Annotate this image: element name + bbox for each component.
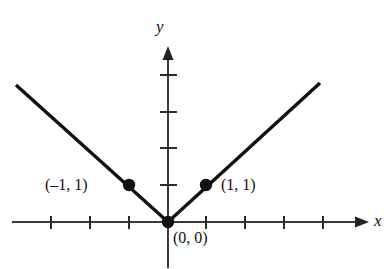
graph-figure: y x (–1, 1) (1, 1) (0, 0) <box>0 0 389 269</box>
x-axis-label: x <box>374 212 382 229</box>
data-point-origin <box>162 216 174 228</box>
point-label-negative-one: (–1, 1) <box>45 177 88 193</box>
data-point-left <box>123 179 135 191</box>
y-axis-label: y <box>156 18 164 35</box>
x-axis-arrow-icon <box>355 217 369 228</box>
data-point-right <box>200 179 212 191</box>
point-label-positive-one: (1, 1) <box>221 177 256 193</box>
y-axis-arrow-icon <box>163 46 174 60</box>
point-label-origin: (0, 0) <box>173 230 208 246</box>
